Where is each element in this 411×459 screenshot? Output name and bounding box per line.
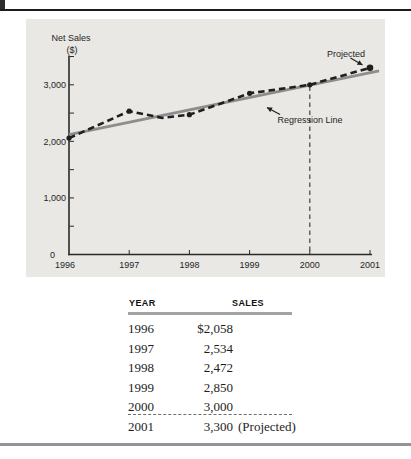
year-cell: 2001 — [128, 417, 185, 437]
data-point-marker — [66, 135, 71, 140]
table-row: 19982,472 — [128, 358, 300, 378]
sales-amount-cell: $2,058 — [185, 319, 233, 339]
sales-amount-cell: 3,300 — [185, 417, 233, 437]
data-point-marker — [307, 82, 312, 87]
x-tick-label: 2000 — [300, 260, 320, 270]
sales-table-header: YEAR SALES — [128, 297, 300, 313]
sales-column-header: SALES — [232, 298, 264, 308]
sales-table: YEAR SALES 1996$2,05819972,53419982,4721… — [128, 297, 300, 437]
year-cell: 1997 — [128, 339, 185, 359]
x-tick-label: 1997 — [119, 260, 139, 270]
data-point-marker — [187, 112, 192, 117]
x-tick-label: 2001 — [360, 260, 380, 270]
data-point-marker — [127, 109, 132, 114]
sales-suffix-cell: (Projected) — [238, 417, 296, 437]
table-row: 19972,534 — [128, 339, 300, 359]
table-row: 1996$2,058 — [128, 319, 300, 339]
sales-amount-cell: 2,534 — [185, 339, 233, 359]
table-row: 19992,850 — [128, 378, 300, 398]
data-point-marker — [247, 91, 252, 96]
y-axis-title-line2: ($) — [67, 45, 78, 55]
y-axis-title-line1: Net Sales — [51, 33, 91, 43]
sales-amount-cell: 3,000 — [185, 397, 233, 417]
sales-amount-cell: 2,850 — [185, 378, 233, 398]
year-cell: 1996 — [128, 319, 185, 339]
year-cell: 2000 — [128, 397, 185, 417]
x-tick-label: 1996 — [55, 260, 75, 270]
year-cell: 1999 — [128, 378, 185, 398]
projected-point-marker — [367, 65, 374, 72]
sales-amount-cell: 2,472 — [185, 358, 233, 378]
sales-table-rows: 1996$2,05819972,53419982,47219992,850200… — [128, 319, 300, 437]
x-tick-label: 1998 — [179, 260, 199, 270]
y-tick-label: 2,000 — [43, 137, 66, 147]
year-column-header: YEAR — [129, 298, 156, 308]
x-tick-label: 1999 — [240, 260, 260, 270]
projected-annotation-label: Projected — [327, 49, 365, 59]
regression-annotation-label: Regression Line — [277, 115, 342, 125]
bottom-rule — [0, 443, 411, 446]
year-cell: 1998 — [128, 358, 185, 378]
table-row: 20013,300(Projected) — [128, 417, 300, 437]
y-tick-label: 0 — [50, 250, 55, 260]
header-underline — [128, 312, 292, 315]
net-sales-chart: 19961997199819992000200101,0002,0003,000… — [0, 0, 411, 292]
y-tick-label: 1,000 — [43, 193, 66, 203]
y-tick-label: 3,000 — [43, 80, 66, 90]
